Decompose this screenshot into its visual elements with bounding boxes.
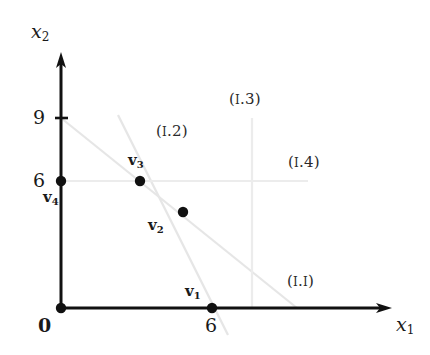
point-v3: [135, 176, 145, 186]
origin-label: 0: [38, 316, 51, 335]
constraint-line-1-2: [118, 115, 228, 335]
constraint-label-1-3: (I.3): [229, 92, 261, 107]
constraint-label-1-1: (I.I): [287, 274, 314, 289]
constraint-label-1-2: (I.2): [156, 124, 188, 139]
axes: [55, 52, 392, 313]
x-axis-label: x1: [396, 315, 414, 336]
constraint-label-1-4: (I.4): [288, 155, 320, 170]
point-v4: [56, 176, 66, 186]
figure-canvas: x2 x1 9 6 6 0 v1 v2 v3 v4 (I.I) (I.2) (I…: [0, 0, 430, 355]
point-label-v3: v3: [128, 153, 144, 170]
point-label-v2: v2: [148, 218, 164, 235]
x-tick-label-6: 6: [205, 316, 217, 335]
point-v2: [178, 207, 188, 217]
point-v1: [207, 303, 217, 313]
diagram-svg: [0, 0, 430, 355]
y-tick-label-9: 9: [33, 108, 45, 127]
point-label-v1: v1: [185, 284, 201, 301]
point-label-v4: v4: [43, 190, 59, 207]
point-origin: [56, 303, 66, 313]
constraint-lines: [61, 115, 308, 335]
y-axis-label: x2: [31, 22, 49, 43]
